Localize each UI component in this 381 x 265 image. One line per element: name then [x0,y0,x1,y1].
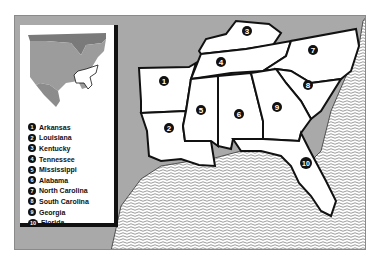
legend-item-kentucky: 3Kentucky [28,143,89,154]
inset-us-map [26,29,120,119]
marker-6: 6 [237,110,242,119]
number-badge: 2 [28,134,36,142]
number-badge: 8 [28,197,36,205]
marker-7: 7 [311,46,316,55]
number-badge: 1 [28,123,36,131]
legend-item-louisiana: 2Louisiana [28,133,89,144]
legend-label: Mississippi [39,166,77,173]
legend-item-alabama: 6Alabama [28,175,89,186]
marker-9: 9 [275,103,280,112]
legend-label: Kentucky [39,145,71,152]
number-badge: 10 [28,219,38,227]
number-badge: 9 [28,208,36,216]
number-badge: 4 [28,155,36,163]
legend-item-georgia: 9Georgia [28,207,89,218]
number-badge: 3 [28,144,36,152]
legend-panel: 1Arkansas 2Louisiana 3Kentucky 4Tennesse… [20,25,118,227]
legend-item-south-carolina: 8South Carolina [28,196,89,207]
number-badge: 7 [28,187,36,195]
legend-item-mississippi: 5Mississippi [28,164,89,175]
legend-label: North Carolina [39,187,88,194]
legend-label: Louisiana [39,134,72,141]
marker-2: 2 [167,124,172,133]
legend-item-north-carolina: 7North Carolina [28,186,89,197]
legend-item-arkansas: 1Arkansas [28,122,89,133]
legend-label: South Carolina [39,198,89,205]
legend-label: Florida [41,219,64,226]
legend-list: 1Arkansas 2Louisiana 3Kentucky 4Tennesse… [28,122,89,228]
marker-4: 4 [219,58,224,67]
number-badge: 5 [28,166,36,174]
marker-8: 8 [306,81,311,90]
legend-label: Arkansas [39,124,71,131]
legend-label: Georgia [39,209,65,216]
marker-10: 10 [302,160,310,167]
legend-item-florida: 10Florida [28,217,89,228]
number-badge: 6 [28,176,36,184]
legend-label: Tennessee [39,156,75,163]
marker-5: 5 [199,106,204,115]
marker-1: 1 [162,77,167,86]
inset-usa [30,39,106,91]
legend-label: Alabama [39,177,68,184]
marker-3: 3 [245,27,250,36]
legend-item-tennessee: 4Tennessee [28,154,89,165]
